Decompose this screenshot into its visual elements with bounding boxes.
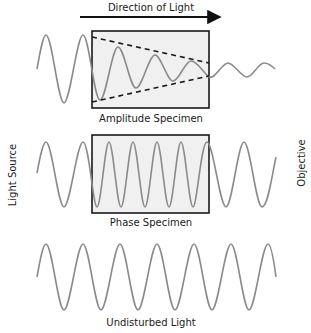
light-diagram: Direction of Light Amplitude Specimen Ph… <box>0 0 311 333</box>
amplitude-specimen-label: Amplitude Specimen <box>99 113 203 124</box>
phase-specimen-label: Phase Specimen <box>110 217 192 228</box>
objective-label: Objective <box>296 139 307 186</box>
phase-panel: Phase Specimen <box>37 135 276 228</box>
undisturbed-panel: Undisturbed Light <box>37 244 276 328</box>
direction-label: Direction of Light <box>108 2 194 13</box>
light-source-label: Light Source <box>7 144 18 206</box>
undisturbed-light-label: Undisturbed Light <box>106 317 195 328</box>
undisturbed-wave <box>37 244 276 310</box>
amplitude-panel: Amplitude Specimen <box>37 31 275 124</box>
